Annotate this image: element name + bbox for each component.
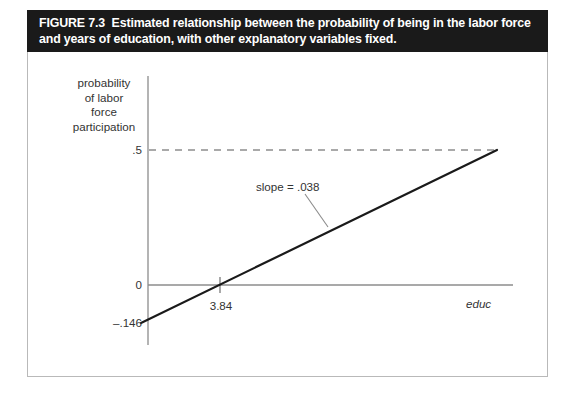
slope-annotation: slope = .038 — [256, 180, 320, 193]
y-tick-label-half: .5 — [120, 143, 142, 156]
figure-page: FIGURE 7.3 Estimated relationship betwee… — [0, 0, 577, 399]
y-axis-title: probability of labor force participation — [62, 76, 146, 134]
y-tick-label-zero: 0 — [118, 278, 142, 291]
x-axis-title: educ — [466, 297, 491, 310]
slope-leader-line — [305, 194, 328, 227]
plot-area — [0, 0, 577, 399]
y-tick-label-intercept: –.146 — [88, 316, 142, 329]
x-tick-label-384: 3.84 — [199, 299, 243, 312]
fitted-line — [141, 150, 497, 323]
